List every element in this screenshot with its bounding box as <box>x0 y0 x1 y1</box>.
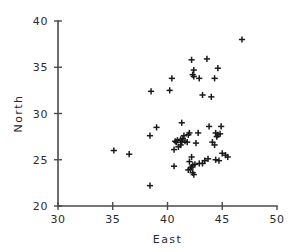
data-point <box>218 123 224 129</box>
data-point <box>216 158 222 164</box>
x-tick-label: 50 <box>269 213 284 226</box>
data-point <box>215 65 221 71</box>
x-tick-label: 35 <box>105 213 120 226</box>
data-point <box>208 94 214 100</box>
y-tick-label: 35 <box>33 61 48 74</box>
data-point <box>196 160 202 166</box>
data-points-layer <box>111 36 245 188</box>
y-tick-label: 40 <box>33 15 48 28</box>
y-axis-title: North <box>12 95 25 133</box>
data-point <box>211 75 217 81</box>
data-point <box>126 151 132 157</box>
x-axis-group: 3035404550 <box>50 202 284 226</box>
data-point <box>239 36 245 42</box>
data-point <box>167 87 173 93</box>
data-point <box>153 124 159 130</box>
y-tick-label: 30 <box>33 108 48 121</box>
data-point <box>148 88 154 94</box>
data-point <box>213 157 219 163</box>
data-point <box>193 140 199 146</box>
y-tick-label: 20 <box>33 200 48 213</box>
x-axis-title: East <box>153 233 182 246</box>
data-point <box>199 92 205 98</box>
data-point <box>147 133 153 139</box>
data-point <box>195 130 201 136</box>
x-tick-label: 45 <box>215 213 230 226</box>
y-tick-label: 25 <box>33 154 48 167</box>
x-tick-label: 30 <box>50 213 65 226</box>
data-point <box>179 120 185 126</box>
data-point <box>147 183 153 189</box>
data-point <box>169 75 175 81</box>
data-point <box>196 75 202 81</box>
x-tick-label: 40 <box>160 213 175 226</box>
y-axis-group: 2025303540 <box>33 15 62 213</box>
plot-canvas: 2025303540 3035404550 East North <box>0 0 300 252</box>
data-point <box>111 147 117 153</box>
data-point <box>171 163 177 169</box>
data-point <box>204 56 210 62</box>
data-point <box>206 123 212 129</box>
scatter-plot-figure: 2025303540 3035404550 East North <box>0 0 300 252</box>
data-point <box>188 57 194 63</box>
data-point <box>191 67 197 73</box>
